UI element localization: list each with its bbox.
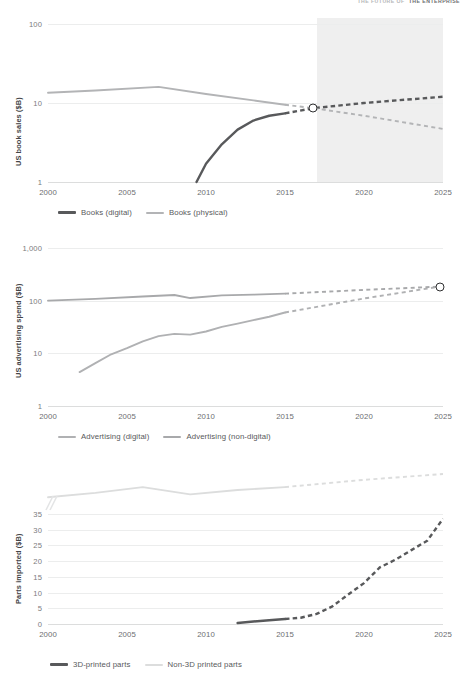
legend-label: Advertising (digital) bbox=[81, 432, 149, 441]
x-axis-tick: 2010 bbox=[197, 630, 215, 639]
series-line-actual bbox=[197, 113, 285, 182]
series-line-actual bbox=[48, 87, 285, 105]
series-layer bbox=[48, 514, 443, 624]
series-layer bbox=[48, 248, 443, 406]
x-axis-tick: 2005 bbox=[118, 412, 136, 421]
x-axis-tick: 2015 bbox=[276, 630, 294, 639]
series-line-forecast bbox=[285, 474, 443, 487]
series-line-actual bbox=[238, 619, 285, 623]
y-axis-tick: 5 bbox=[8, 604, 42, 613]
y-axis-tick: 30 bbox=[8, 525, 42, 534]
header-title: THE ENTERPRISE bbox=[409, 0, 460, 4]
series-end-marker bbox=[435, 282, 444, 291]
x-axis-line bbox=[48, 406, 443, 407]
y-axis-tick: 100 bbox=[8, 20, 42, 29]
chart-panel-advertising-spend: US advertising spend ($B) 1101001,000200… bbox=[0, 232, 466, 454]
y-axis-tick: 0 bbox=[8, 620, 42, 629]
legend-label: Books (digital) bbox=[81, 208, 132, 217]
x-axis-tick: 2025 bbox=[434, 630, 452, 639]
y-axis-tick: 10 bbox=[8, 99, 42, 108]
plot-area-book-sales: 110100200020052010201520202025 bbox=[48, 24, 443, 182]
y-axis-tick: 25 bbox=[8, 541, 42, 550]
series-line-forecast bbox=[285, 519, 443, 619]
series-line-actual bbox=[48, 294, 285, 301]
y-axis-tick: 10 bbox=[8, 588, 42, 597]
x-axis-tick: 2000 bbox=[39, 630, 57, 639]
chart-panel-parts-imported: Parts imported ($B) 05101520253035200020… bbox=[0, 456, 466, 679]
y-axis-label: US book sales ($B) bbox=[14, 97, 23, 166]
plot-area-advertising-spend: 1101001,000200020052010201520202025 bbox=[48, 248, 443, 406]
legend-swatch bbox=[145, 664, 163, 666]
legend-book-sales: Books (digital)Books (physical) bbox=[58, 208, 228, 217]
legend-item[interactable]: 3D-printed parts bbox=[50, 660, 131, 669]
x-axis-tick: 2005 bbox=[118, 188, 136, 197]
axis-break-icon bbox=[44, 494, 58, 512]
legend-item[interactable]: Non-3D printed parts bbox=[145, 660, 242, 669]
legend-swatch bbox=[146, 212, 164, 214]
y-axis-tick: 100 bbox=[8, 296, 42, 305]
x-axis-tick: 2010 bbox=[197, 412, 215, 421]
legend-item[interactable]: Books (digital) bbox=[58, 208, 132, 217]
legend-label: 3D-printed parts bbox=[73, 660, 131, 669]
header-kicker: THE FUTURE OF bbox=[357, 0, 404, 4]
legend-label: Books (physical) bbox=[169, 208, 228, 217]
x-axis-tick: 2020 bbox=[355, 412, 373, 421]
legend-item[interactable]: Advertising (non-digital) bbox=[163, 432, 270, 441]
legend-advertising-spend: Advertising (digital)Advertising (non-di… bbox=[58, 432, 271, 441]
chart-panel-book-sales: US book sales ($B) 110100200020052010201… bbox=[0, 8, 466, 230]
x-axis-tick: 2015 bbox=[276, 412, 294, 421]
legend-swatch bbox=[58, 211, 76, 214]
plot-area-parts-imported: 05101520253035200020052010201520202025 bbox=[48, 514, 443, 624]
x-axis-tick: 2020 bbox=[355, 188, 373, 197]
figure-page: THE FUTURE OF THE ENTERPRISE US book sal… bbox=[0, 0, 466, 679]
legend-swatch bbox=[50, 663, 68, 666]
y-axis-tick: 20 bbox=[8, 557, 42, 566]
series-layer-upper bbox=[48, 460, 443, 522]
y-axis-tick: 1 bbox=[8, 178, 42, 187]
y-axis-tick: 1,000 bbox=[8, 244, 42, 253]
x-axis-line bbox=[48, 182, 443, 183]
figure-header: THE FUTURE OF THE ENTERPRISE bbox=[357, 0, 460, 7]
legend-swatch bbox=[163, 436, 181, 438]
series-line-actual bbox=[80, 313, 285, 373]
series-line-actual bbox=[48, 487, 285, 497]
legend-parts-imported: 3D-printed partsNon-3D printed parts bbox=[50, 660, 242, 669]
legend-label: Non-3D printed parts bbox=[168, 660, 242, 669]
x-axis-tick: 2020 bbox=[355, 630, 373, 639]
series-layer bbox=[48, 24, 443, 182]
y-axis-tick: 15 bbox=[8, 572, 42, 581]
y-axis-tick: 1 bbox=[8, 402, 42, 411]
legend-label: Advertising (non-digital) bbox=[186, 432, 270, 441]
series-end-marker bbox=[309, 104, 318, 113]
legend-swatch bbox=[58, 436, 76, 438]
legend-item[interactable]: Books (physical) bbox=[146, 208, 228, 217]
x-axis-tick: 2025 bbox=[434, 188, 452, 197]
x-axis-tick: 2025 bbox=[434, 412, 452, 421]
x-axis-tick: 2015 bbox=[276, 188, 294, 197]
x-axis-tick: 2000 bbox=[39, 412, 57, 421]
legend-item[interactable]: Advertising (digital) bbox=[58, 432, 149, 441]
x-axis-tick: 2005 bbox=[118, 630, 136, 639]
y-axis-tick: 35 bbox=[8, 510, 42, 519]
gridline bbox=[48, 624, 443, 625]
y-axis-tick: 10 bbox=[8, 349, 42, 358]
x-axis-tick: 2010 bbox=[197, 188, 215, 197]
x-axis-tick: 2000 bbox=[39, 188, 57, 197]
